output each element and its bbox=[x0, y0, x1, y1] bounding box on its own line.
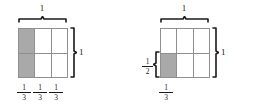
fraction-denominator: 2 bbox=[145, 68, 151, 76]
grid-left bbox=[18, 28, 68, 78]
fraction-denominator: 3 bbox=[37, 94, 43, 102]
top-brace-label-right: 1 bbox=[178, 4, 190, 13]
right-brace-label-right: 1 bbox=[221, 48, 231, 57]
top-brace-right bbox=[160, 16, 209, 23]
grid-cell bbox=[35, 29, 50, 53]
fraction-numerator: 1 bbox=[37, 84, 43, 92]
fraction-numerator: 1 bbox=[53, 84, 59, 92]
grid-cell bbox=[19, 54, 34, 78]
area-model-diagram-right: 1 1 2 1 1 bbox=[130, 0, 261, 111]
grid-cell bbox=[161, 29, 176, 53]
figure-canvas: 1 1 1 3 1 3 1 bbox=[0, 0, 261, 111]
grid-cell bbox=[52, 54, 67, 78]
grid-right bbox=[160, 28, 210, 78]
left-brace-right bbox=[153, 51, 160, 78]
grid-cell bbox=[35, 54, 50, 78]
top-brace-left bbox=[18, 16, 67, 23]
grid-cell bbox=[177, 54, 192, 78]
grid-cell bbox=[194, 29, 209, 53]
bottom-fraction-label: 1 3 bbox=[17, 84, 31, 102]
fraction-numerator: 1 bbox=[21, 84, 27, 92]
grid-cell bbox=[52, 29, 67, 53]
area-model-diagram-left: 1 1 1 3 1 3 1 bbox=[0, 0, 131, 111]
grid-cell bbox=[177, 29, 192, 53]
fraction-numerator: 1 bbox=[145, 58, 151, 66]
grid-cell bbox=[161, 54, 176, 78]
right-brace-left bbox=[70, 27, 77, 78]
right-brace-label-left: 1 bbox=[79, 48, 89, 57]
left-brace-fraction-label-right: 1 2 bbox=[142, 58, 153, 76]
grid-cell bbox=[194, 54, 209, 78]
top-brace-label-left: 1 bbox=[36, 4, 48, 13]
fraction-denominator: 3 bbox=[21, 94, 27, 102]
bottom-fraction-label: 1 3 bbox=[33, 84, 47, 102]
fraction-denominator: 3 bbox=[53, 94, 59, 102]
fraction-denominator: 3 bbox=[163, 94, 169, 102]
bottom-fraction-label: 1 3 bbox=[159, 84, 173, 102]
bottom-fraction-label: 1 3 bbox=[49, 84, 63, 102]
grid-cell bbox=[19, 29, 34, 53]
fraction-numerator: 1 bbox=[163, 84, 169, 92]
right-brace-right bbox=[212, 27, 219, 78]
